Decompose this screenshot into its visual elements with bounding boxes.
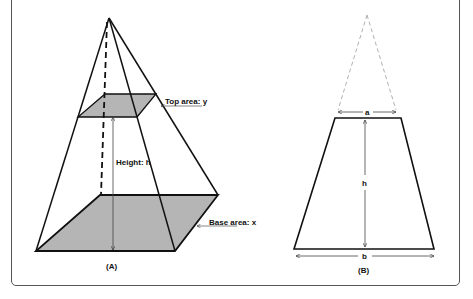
top-area-shape — [78, 94, 156, 117]
base-area-shape — [36, 195, 218, 251]
top-area-label: Top area: y — [165, 97, 208, 106]
width-b-label: b — [362, 252, 367, 261]
caption-b: (B) — [358, 266, 369, 275]
height-label: Height: h — [116, 158, 151, 167]
width-a-label: a — [365, 108, 370, 117]
panel-a: Top area: y Height: h Base area: x (A) — [36, 18, 257, 271]
caption-a: (A) — [106, 262, 117, 271]
frustum-diagram: Top area: y Height: h Base area: x (A) a… — [0, 0, 473, 299]
ghost-edge-left — [338, 15, 367, 110]
height-h-label: h — [362, 179, 367, 188]
base-area-label: Base area: x — [209, 218, 257, 227]
panel-b: a h b (B) — [294, 15, 434, 275]
ghost-edge-right — [367, 15, 396, 110]
